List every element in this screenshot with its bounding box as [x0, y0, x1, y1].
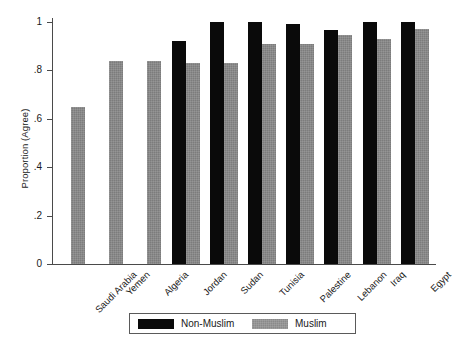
- y-axis-tick-label: .8: [2, 65, 42, 75]
- bar-yemen-muslim: [109, 61, 123, 264]
- y-axis-tick-label: .6: [2, 114, 42, 124]
- bar-egypt-non-muslim: [401, 22, 415, 264]
- bar-tunisia-non-muslim: [248, 22, 262, 264]
- bar-lebanon-muslim: [338, 35, 352, 264]
- y-axis-tick: [47, 264, 53, 265]
- legend-label-non-muslim: Non-Muslim: [181, 318, 234, 329]
- x-axis-tick-label: Palestine: [318, 269, 353, 304]
- x-axis-tick-label: Jordan: [200, 269, 228, 297]
- bar-egypt-muslim: [415, 29, 429, 264]
- legend-swatch-non-muslim-icon: [138, 319, 174, 329]
- legend-label-muslim: Muslim: [295, 318, 327, 329]
- bar-iraq-non-muslim: [363, 22, 377, 264]
- bar-algeria-muslim: [147, 61, 161, 264]
- y-axis-tick-label: .4: [2, 162, 42, 172]
- x-axis-tick-label: Egypt: [428, 269, 453, 294]
- bar-tunisia-muslim: [262, 44, 276, 264]
- x-axis-tick-label: Iraq: [387, 269, 406, 288]
- y-axis-label: Proportion (Agree): [19, 79, 30, 219]
- y-axis-tick-label: 1: [2, 17, 42, 27]
- bar-sudan-muslim: [224, 63, 238, 264]
- chart-legend: Non-Muslim Muslim: [129, 313, 356, 334]
- legend-item-muslim: Muslim: [252, 314, 327, 333]
- legend-item-non-muslim: Non-Muslim: [138, 314, 234, 333]
- plot-area: [53, 22, 435, 264]
- x-axis-tick-label: Lebanon: [355, 269, 389, 303]
- x-axis-tick-label: Algeria: [162, 269, 191, 298]
- y-axis-tick-label: .2: [2, 211, 42, 221]
- bar-jordan-muslim: [186, 63, 200, 264]
- bar-saudi-arabia-muslim: [71, 107, 85, 264]
- x-axis-tick-label: Sudan: [238, 269, 265, 296]
- y-axis-tick-label: 0: [2, 259, 42, 269]
- legend-swatch-muslim-icon: [252, 319, 288, 329]
- bar-lebanon-non-muslim: [324, 30, 338, 264]
- bar-palestine-muslim: [300, 44, 314, 264]
- x-axis-tick-label: Tunisia: [277, 269, 306, 298]
- bar-jordan-non-muslim: [172, 41, 186, 264]
- bar-iraq-muslim: [377, 39, 391, 264]
- x-axis-line: [52, 264, 436, 265]
- bar-sudan-non-muslim: [210, 22, 224, 264]
- bar-palestine-non-muslim: [286, 24, 300, 264]
